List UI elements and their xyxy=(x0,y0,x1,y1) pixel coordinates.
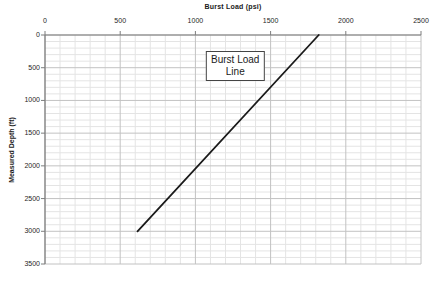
x-tick-label: 2000 xyxy=(331,17,361,24)
y-tick-label: 500 xyxy=(18,64,40,71)
x-tick-label: 1000 xyxy=(180,17,210,24)
y-tick-label: 0 xyxy=(18,31,40,38)
annotation-text-line-2: Line xyxy=(211,66,259,78)
plot-area xyxy=(0,0,445,281)
burst-load-line-annotation: Burst Load Line xyxy=(206,51,264,81)
x-tick-label: 500 xyxy=(105,17,135,24)
x-tick-label: 0 xyxy=(30,17,60,24)
y-tick-label: 2000 xyxy=(18,162,40,169)
y-tick-label: 1500 xyxy=(18,129,40,136)
y-tick-label: 1000 xyxy=(18,96,40,103)
y-tick-label: 3000 xyxy=(18,227,40,234)
y-tick-label: 2500 xyxy=(18,195,40,202)
burst-load-chart: Burst Load (psi) Measured Depth (ft) 050… xyxy=(0,0,445,281)
y-tick-label: 3500 xyxy=(18,260,40,267)
annotation-text-line-1: Burst Load xyxy=(211,54,259,66)
x-tick-label: 2500 xyxy=(406,17,436,24)
x-tick-label: 1500 xyxy=(256,17,286,24)
